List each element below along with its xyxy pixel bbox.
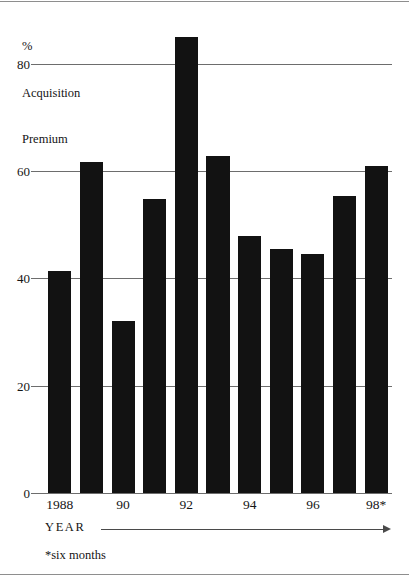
bar-chart-figure: % Acquisition Premium 020406080 19889092… bbox=[0, 0, 409, 577]
x-tick-label-96: 96 bbox=[306, 497, 320, 513]
x-tick-label-92: 92 bbox=[180, 497, 194, 513]
y-tick-label-60: 60 bbox=[17, 165, 30, 178]
x-tick-label-94: 94 bbox=[243, 497, 257, 513]
bar-1997 bbox=[333, 196, 356, 493]
bar-1998 bbox=[365, 166, 388, 493]
gridline-0 bbox=[44, 493, 392, 494]
y-tick-mark-80 bbox=[31, 64, 44, 65]
bar-1991 bbox=[143, 199, 166, 493]
footnote: *six months bbox=[45, 548, 106, 563]
top-divider-rule bbox=[0, 1, 409, 2]
y-tick-mark-0 bbox=[31, 493, 44, 494]
x-tick-label-98star: 98* bbox=[366, 497, 386, 513]
x-axis-tick-labels: 19889092949698* bbox=[44, 497, 392, 517]
x-axis-arrow-icon bbox=[383, 525, 391, 533]
x-axis-label: YEAR bbox=[45, 519, 85, 535]
bar-1994 bbox=[238, 236, 261, 493]
y-tick-mark-40 bbox=[31, 278, 44, 279]
bar-1989 bbox=[80, 162, 103, 493]
y-tick-label-40: 40 bbox=[17, 272, 30, 285]
plot-area bbox=[44, 10, 392, 493]
y-tick-mark-60 bbox=[31, 171, 44, 172]
bar-1996 bbox=[301, 254, 324, 493]
x-tick-label-1988: 1988 bbox=[46, 497, 73, 513]
bottom-divider-rule bbox=[0, 574, 409, 575]
bar-1990 bbox=[112, 321, 135, 493]
y-tick-mark-20 bbox=[31, 386, 44, 387]
bar-1988 bbox=[48, 271, 71, 493]
bar-1995 bbox=[270, 249, 293, 493]
x-axis-arrow-line bbox=[101, 529, 387, 530]
y-tick-label-80: 80 bbox=[17, 58, 30, 71]
bar-1993 bbox=[206, 156, 229, 493]
bars-group bbox=[44, 10, 392, 493]
x-tick-label-90: 90 bbox=[116, 497, 130, 513]
y-tick-label-0: 0 bbox=[24, 487, 31, 500]
y-tick-label-20: 20 bbox=[17, 380, 30, 393]
y-axis-tick-labels: 020406080 bbox=[0, 10, 30, 493]
bar-1992 bbox=[175, 37, 198, 493]
x-axis-label-row: YEAR bbox=[45, 519, 385, 539]
